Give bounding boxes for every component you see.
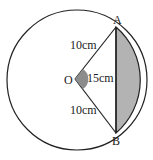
label-o: O [64,73,73,87]
label-a: A [113,13,122,27]
label-b: B [112,134,120,148]
circle-segment-diagram: A B O 10cm 10cm 15cm [0,0,153,160]
label-oa-length: 10cm [70,38,97,52]
label-ab-length: 15cm [87,71,114,85]
label-ob-length: 10cm [70,103,97,117]
